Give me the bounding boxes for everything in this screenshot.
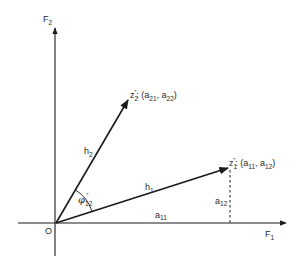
f1-axis-label: F1 (265, 229, 275, 241)
origin-label: O (45, 226, 52, 236)
angle-phi12-label: φ12″ (78, 192, 93, 207)
z1-point-label: z1″: (a11, a12) (229, 157, 275, 170)
a11-label: a11 (155, 210, 167, 221)
f2-axis-label: F2 (43, 14, 53, 26)
h1-length-label: h1 (145, 182, 154, 194)
factor-vector-diagram: F2 F1 O z2″: (a21, a22) z1″: (a11, a12) … (0, 0, 301, 271)
a12-label: a12 (215, 196, 228, 207)
h2-length-label: h2 (84, 146, 93, 158)
z2-point-label: z2″: (a21, a22) (130, 89, 177, 102)
